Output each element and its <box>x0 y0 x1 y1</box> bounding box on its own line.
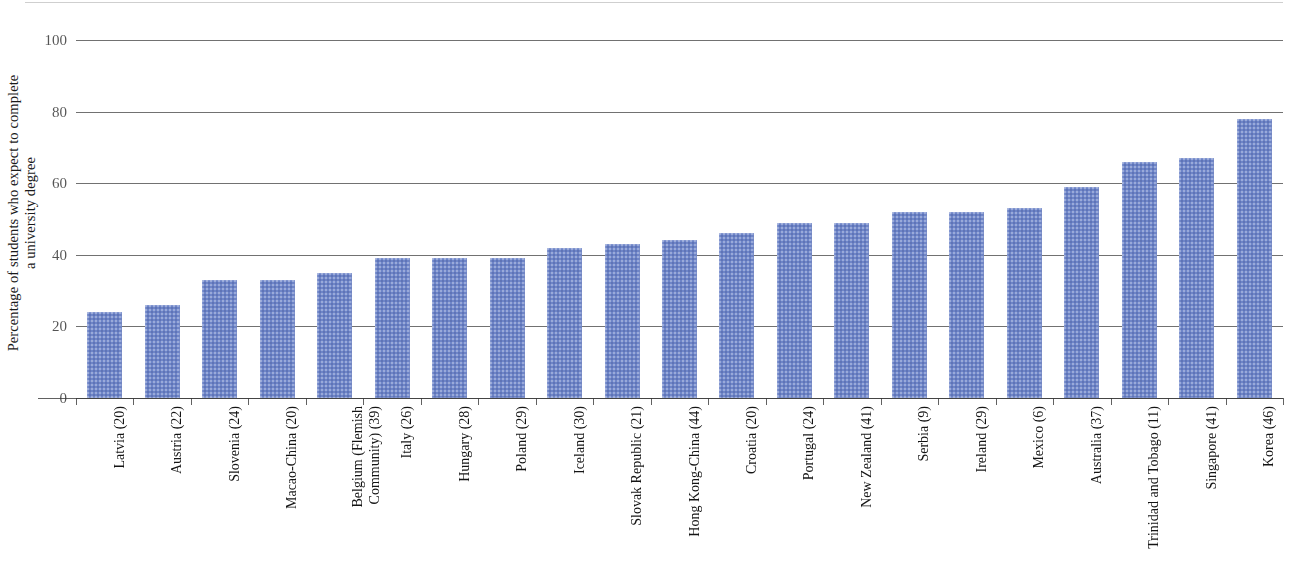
x-tick <box>823 398 824 405</box>
bar <box>145 305 180 398</box>
bar <box>317 273 352 398</box>
x-tick-label: Italy (26) <box>399 406 417 566</box>
x-tick <box>191 398 192 405</box>
x-tick <box>1053 398 1054 405</box>
bar <box>1237 119 1272 398</box>
bar <box>432 258 467 398</box>
bar-series <box>76 40 1283 398</box>
bar <box>605 244 640 398</box>
x-tick-label: Australia (37) <box>1089 406 1107 566</box>
x-tick <box>76 398 77 405</box>
x-tick-label: Latvia (20) <box>112 406 130 566</box>
bar <box>1064 187 1099 398</box>
x-tick <box>708 398 709 405</box>
x-tick-label: Serbia (9) <box>916 406 934 566</box>
x-tick-label: Ireland (29) <box>974 406 992 566</box>
bar <box>719 233 754 398</box>
x-axis-tick-labels: Latvia (20)Austria (22)Slovenia (24)Maca… <box>76 406 1283 573</box>
x-tick-label: Croatia (20) <box>744 406 762 566</box>
bar <box>260 280 295 398</box>
x-tick-label: Portugal (24) <box>801 406 819 566</box>
x-tick-label: Iceland (30) <box>572 406 590 566</box>
x-tick-label: Singapore (41) <box>1204 406 1222 566</box>
y-tick-label-100: 100 <box>45 32 68 49</box>
x-tick <box>536 398 537 405</box>
x-tick <box>421 398 422 405</box>
bar <box>87 312 122 398</box>
x-tick <box>363 398 364 405</box>
x-tick-label: Austria (22) <box>169 406 187 566</box>
x-tick <box>248 398 249 405</box>
bar <box>375 258 410 398</box>
x-tick <box>996 398 997 405</box>
x-tick <box>1283 398 1284 405</box>
x-tick <box>938 398 939 405</box>
y-tick-label-40: 40 <box>52 246 67 263</box>
x-tick-label: Slovak Republic (21) <box>629 406 647 566</box>
y-axis-title: Percentage of students who expect to com… <box>0 28 44 398</box>
x-tick <box>133 398 134 405</box>
x-tick-label: Mexico (6) <box>1031 406 1049 566</box>
x-tick-label: Trinidad and Tobago (11) <box>1146 406 1164 566</box>
y-axis-title-line2: a university degree <box>22 75 39 352</box>
x-tick-label: Macao-China (20) <box>284 406 302 566</box>
x-tick <box>1111 398 1112 405</box>
x-tick-label: Belgium (Flemish Community) (39) <box>349 406 385 566</box>
plot-area: 100806040200 <box>76 40 1283 398</box>
y-tick-label-60: 60 <box>52 175 67 192</box>
bar <box>547 248 582 398</box>
x-tick-label: Hong Kong-China (44) <box>687 406 705 566</box>
y-axis-title-line1: Percentage of students who expect to com… <box>5 75 21 352</box>
x-axis-line <box>38 398 1283 399</box>
x-tick <box>881 398 882 405</box>
bar-chart: Percentage of students who expect to com… <box>0 0 1303 573</box>
bar <box>949 212 984 398</box>
x-tick-label: Korea (46) <box>1261 406 1279 566</box>
top-border-rule <box>25 2 1283 3</box>
x-tick <box>651 398 652 405</box>
x-tick-label: Hungary (28) <box>457 406 475 566</box>
bar <box>892 212 927 398</box>
bar <box>834 223 869 398</box>
x-tick <box>1226 398 1227 405</box>
x-tick <box>306 398 307 405</box>
x-tick <box>766 398 767 405</box>
y-tick-label-20: 20 <box>52 318 67 335</box>
bar <box>1007 208 1042 398</box>
x-tick-label: Slovenia (24) <box>227 406 245 566</box>
x-tick <box>593 398 594 405</box>
bar <box>1179 158 1214 398</box>
y-tick-label-80: 80 <box>52 103 67 120</box>
x-tick-label: Poland (29) <box>514 406 532 566</box>
bar <box>1122 162 1157 398</box>
bar <box>490 258 525 398</box>
bar <box>777 223 812 398</box>
x-tick <box>478 398 479 405</box>
bar <box>662 240 697 398</box>
bar <box>202 280 237 398</box>
x-tick-label: New Zealand (41) <box>859 406 877 566</box>
x-tick <box>1168 398 1169 405</box>
